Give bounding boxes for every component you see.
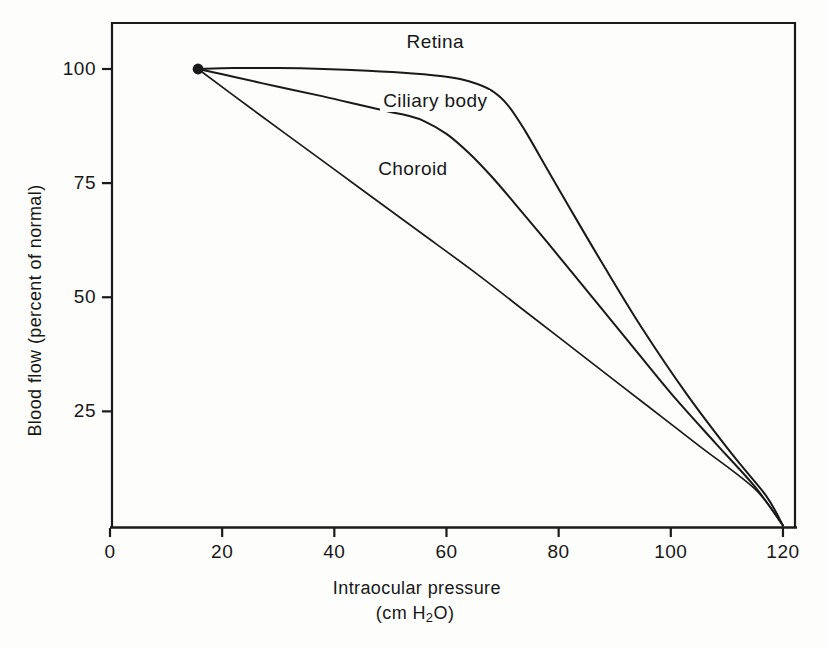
x-tick-label: 80 [548,541,570,563]
y-axis-ticks [102,69,112,411]
x-tick-label: 120 [766,541,799,563]
curve-label-retina: Retina [404,31,467,53]
series-line-ciliary-body [198,69,783,526]
x-axis-units-label: (cm H2O) [376,603,454,625]
curve-label-choroid: Choroid [375,158,450,180]
y-tick-label: 25 [74,400,96,422]
x-tick-label: 100 [654,541,687,563]
y-tick-label: 50 [74,286,96,308]
y-axis-title: Blood flow (percent of normal) [25,151,46,471]
y-tick-label: 75 [74,172,96,194]
series-line-retina [198,68,783,526]
x-tick-label: 0 [104,541,115,563]
y-tick-label: 100 [63,58,96,80]
x-axis-title: Intraocular pressure [333,578,501,599]
x-tick-label: 20 [211,541,233,563]
y-axis-title-wrap: Blood flow (percent of normal) [0,0,60,649]
x-tick-label: 40 [323,541,345,563]
series-line-choroid [198,69,783,526]
origin-data-point-marker [193,64,204,75]
origin-marker [193,64,204,75]
x-tick-label: 60 [435,541,457,563]
figure-container: 020406080100120 255075100 RetinaCiliary … [0,0,827,649]
x-axis-ticks [110,528,783,537]
data-series-group [198,68,783,526]
curve-label-ciliary-body: Ciliary body [380,90,490,112]
